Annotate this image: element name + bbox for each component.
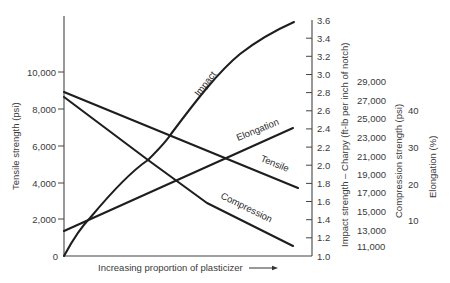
impact-tick-label: 1.0 [317,251,330,262]
impact-tick-label: 2.2 [317,142,330,153]
elongation-axis-title: Elongation (%) [427,136,438,198]
arrow-right-icon [249,266,278,270]
impact-tick-label: 2.8 [317,87,330,98]
compression-axis-tick-labels: 29,000 27,000 25,000 23,000 21,000 19,00… [357,76,386,252]
compression-tick-label: 25,000 [357,113,386,124]
impact-tick-label: 1.4 [317,214,330,225]
compression-axis-title: Compression strength (psi) [393,104,404,218]
impact-tick-label: 1.6 [317,196,330,207]
compression-tick-label: 11,000 [357,241,385,252]
impact-axis-title: Impact strength – Charpy (ft-lb per inch… [339,43,350,247]
elongation-axis-tick-labels: 40 30 20 10 [408,105,419,226]
impact-tick-label: 3.0 [317,69,330,80]
left-axis-tick-labels: 0 2,000 4,000 6,000 8,000 10,000 [27,67,58,262]
impact-tick-label: 2.0 [317,160,330,171]
compression-tick-label: 19,000 [357,169,386,180]
impact-axis-tick-labels: 1.0 1.2 1.4 1.6 1.8 2.0 2.2 2.4 2.6 2.8 … [317,15,330,262]
left-tick-label: 10,000 [27,67,56,78]
impact-tick-label: 1.8 [317,178,330,189]
left-tick-label: 8,000 [32,104,56,115]
elongation-label: Elongation [235,116,281,143]
compression-tick-label: 13,000 [357,225,386,236]
left-tick-label: 0 [53,251,58,262]
left-axis-ticks [58,72,64,219]
elongation-tick-label: 40 [408,105,419,116]
impact-label: Impact [192,69,218,99]
impact-tick-label: 3.4 [317,33,330,44]
impact-tick-label: 2.4 [317,123,330,134]
impact-axis-ticks [306,38,312,238]
x-axis-title: Increasing proportion of plasticizer [98,262,243,273]
compression-tick-label: 21,000 [357,151,386,162]
left-tick-label: 6,000 [32,141,56,152]
compression-tick-label: 15,000 [357,206,386,217]
compression-tick-label: 27,000 [357,95,386,106]
left-tick-label: 4,000 [32,178,56,189]
elongation-tick-label: 10 [408,215,419,226]
impact-tick-label: 1.2 [317,232,330,243]
compression-tick-label: 23,000 [357,132,386,143]
impact-tick-label: 2.6 [317,105,330,116]
tensile-label: Tensile [259,153,291,174]
impact-tick-label: 3.6 [317,15,330,26]
plasticizer-properties-chart: 0 2,000 4,000 6,000 8,000 10,000 Tensile… [0,0,450,283]
left-axis-title: Tensile strength (psi) [10,102,21,190]
elongation-tick-label: 30 [408,142,419,153]
left-tick-label: 2,000 [32,214,56,225]
tensile-curve [64,92,298,188]
compression-tick-label: 29,000 [357,76,386,87]
elongation-tick-label: 20 [408,179,419,190]
compression-label: Compression [219,190,274,224]
compression-tick-label: 17,000 [357,187,386,198]
impact-tick-label: 3.2 [317,51,330,62]
